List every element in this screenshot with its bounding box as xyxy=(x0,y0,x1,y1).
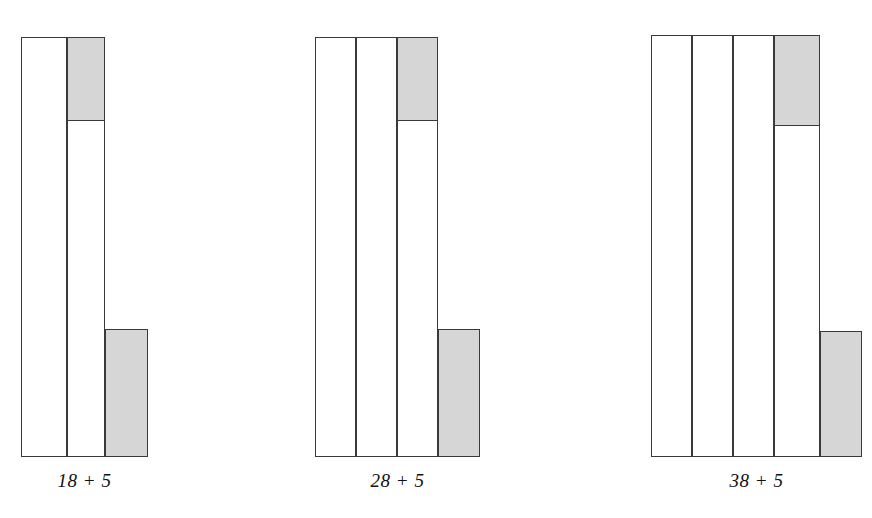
ones-column-shaded-segment xyxy=(820,331,862,457)
tens-column-4-shaded-segment xyxy=(774,35,820,126)
group-label: 38 + 5 xyxy=(651,470,862,492)
tens-column-1 xyxy=(21,37,67,457)
ones-column xyxy=(820,331,862,457)
ones-column xyxy=(105,329,148,457)
ones-column xyxy=(438,329,480,457)
bar-group: 18 + 5 xyxy=(0,0,872,518)
bar-model-figure: 18 + 528 + 538 + 5 xyxy=(0,0,872,518)
tens-column-3-shaded-segment xyxy=(397,37,438,121)
group-label: 28 + 5 xyxy=(315,470,480,492)
bar-group: 28 + 5 xyxy=(0,0,872,518)
group-label: 18 + 5 xyxy=(21,470,148,492)
bar-group: 38 + 5 xyxy=(0,0,872,518)
tens-column-1 xyxy=(651,35,692,457)
tens-column-2 xyxy=(67,37,105,457)
tens-column-3 xyxy=(397,37,438,457)
ones-column-shaded-segment xyxy=(105,329,148,457)
tens-column-4 xyxy=(774,35,820,457)
tens-column-2-shaded-segment xyxy=(67,37,105,121)
tens-column-2 xyxy=(356,37,397,457)
ones-column-shaded-segment xyxy=(438,329,480,457)
tens-column-3 xyxy=(733,35,774,457)
tens-column-2 xyxy=(692,35,733,457)
tens-column-1 xyxy=(315,37,356,457)
